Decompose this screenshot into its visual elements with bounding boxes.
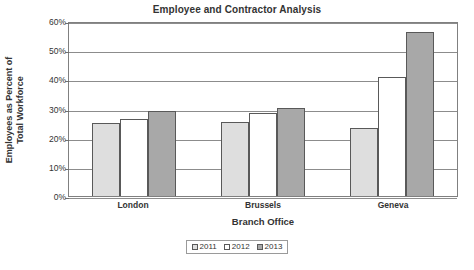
plot-area	[68, 22, 458, 197]
y-axis-tick-label: 50%	[32, 46, 66, 56]
bar[interactable]	[350, 128, 378, 196]
legend-swatch-icon	[224, 244, 230, 250]
legend-label: 2011	[200, 242, 217, 251]
y-axis-title: Employees as Percent of Total Workforce	[2, 22, 28, 198]
y-axis-tick-label: 40%	[32, 75, 66, 85]
y-axis-title-line1: Employees as Percent of	[4, 57, 15, 164]
bar[interactable]	[221, 122, 249, 196]
x-axis-tick-label: Geneva	[328, 200, 458, 210]
legend-swatch-icon	[192, 244, 198, 250]
bar-group	[328, 23, 457, 196]
x-axis-tick-label: London	[68, 200, 198, 210]
legend-item[interactable]: 2011	[192, 242, 217, 251]
y-axis-tick-label: 0%	[32, 192, 66, 202]
y-axis-tick-labels: 60%50%40%30%20%10%0%	[30, 0, 66, 270]
bar[interactable]	[249, 113, 277, 196]
bar[interactable]	[277, 108, 305, 196]
y-axis-tickmark	[65, 198, 69, 199]
bar-group	[198, 23, 327, 196]
bar-group-bars	[69, 23, 198, 196]
legend-label: 2012	[232, 242, 250, 251]
legend-label: 2013	[265, 242, 283, 251]
gridline	[69, 198, 457, 199]
y-axis-tick-label: 30%	[32, 105, 66, 115]
bar-chart: Employee and Contractor Analysis Employe…	[0, 0, 474, 270]
bar-group	[69, 23, 198, 196]
legend-swatch-icon	[257, 244, 263, 250]
legend: 201120122013	[0, 240, 474, 254]
y-axis-tick-label: 10%	[32, 163, 66, 173]
y-axis-tick-label: 60%	[32, 17, 66, 27]
bar-group-bars	[328, 23, 457, 196]
x-axis-title: Branch Office	[68, 216, 458, 227]
bar[interactable]	[378, 77, 406, 196]
x-axis-tick-label: Brussels	[198, 200, 328, 210]
bar-group-bars	[198, 23, 327, 196]
bar[interactable]	[148, 111, 176, 196]
bar[interactable]	[120, 119, 148, 196]
x-axis-tick-labels: LondonBrusselsGeneva	[68, 200, 458, 210]
bar[interactable]	[92, 123, 120, 196]
legend-box: 201120122013	[186, 240, 289, 254]
y-axis-title-line2: Total Workforce	[15, 57, 26, 164]
bar-groups	[69, 23, 457, 196]
bar[interactable]	[406, 32, 434, 196]
chart-title: Employee and Contractor Analysis	[0, 4, 474, 15]
y-axis-tick-label: 20%	[32, 134, 66, 144]
legend-item[interactable]: 2013	[257, 242, 283, 251]
legend-item[interactable]: 2012	[224, 242, 250, 251]
